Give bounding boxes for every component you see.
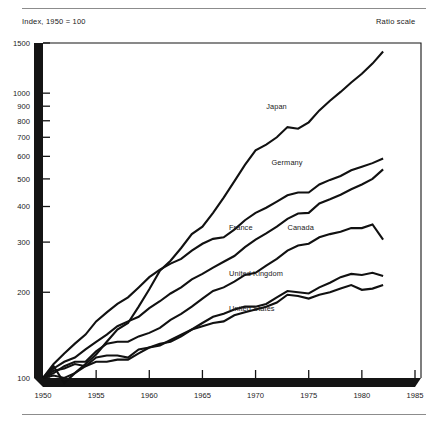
series-label-germany: Germany [272, 158, 303, 167]
y-axis-tick-label: 200 [17, 288, 30, 297]
figure-container: Index, 1950 = 100 Ratio scale 1002003004… [0, 0, 447, 424]
x-axis-tick-labels: 19501955196019651970197519801985 [35, 391, 424, 399]
series-line-united-kingdom [43, 285, 383, 378]
series-inline-labels: JapanGermanyFranceCanadaUnited KingdomUn… [229, 102, 315, 313]
x-axis-tick-label: 1985 [407, 391, 424, 399]
series-label-canada: Canada [287, 223, 314, 232]
bottom-divider-rule [22, 414, 426, 415]
top-divider-rule [22, 8, 426, 9]
series-lines-group [43, 52, 383, 384]
x-axis-tick-label: 1975 [300, 391, 317, 399]
series-label-united-kingdom: United Kingdom [229, 269, 283, 278]
axis-ticks-group [43, 43, 415, 378]
y-axis-tick-label: 900 [17, 102, 30, 111]
x-axis-tick-label: 1970 [247, 391, 264, 399]
x-axis-tick-label: 1950 [35, 391, 52, 399]
x-axis-tick-label: 1955 [88, 391, 105, 399]
axis-block [34, 43, 421, 387]
y-axis-tick-label: 600 [17, 152, 30, 161]
y-axis-tick-label: 700 [17, 133, 30, 142]
series-line-japan [43, 52, 383, 384]
x-axis-tick-label: 1965 [194, 391, 211, 399]
y-axis-tick-label: 300 [17, 238, 30, 247]
axis-right-bevel [415, 378, 421, 387]
y-axis-tick-label: 1000 [13, 89, 30, 98]
x-axis-tick-label: 1980 [353, 391, 370, 399]
axis-solid-bar [34, 43, 415, 387]
y-axis-tick-labels: 10020030040050060070080090010001500 [13, 39, 30, 383]
series-line-france [43, 169, 383, 378]
y-axis-tick-label: 500 [17, 175, 30, 184]
series-label-japan: Japan [266, 102, 287, 111]
y-axis-tick-label: 400 [17, 202, 30, 211]
y-axis-tick-label: 1500 [13, 39, 30, 48]
x-axis-tick-label: 1960 [141, 391, 158, 399]
series-label-united-states: United States [229, 304, 275, 313]
y-axis-tick-label: 100 [17, 374, 30, 383]
plot-frame [43, 43, 421, 378]
series-label-france: France [229, 223, 253, 232]
line-chart-plot: 10020030040050060070080090010001500 1950… [0, 24, 447, 399]
y-axis-tick-label: 800 [17, 117, 30, 126]
